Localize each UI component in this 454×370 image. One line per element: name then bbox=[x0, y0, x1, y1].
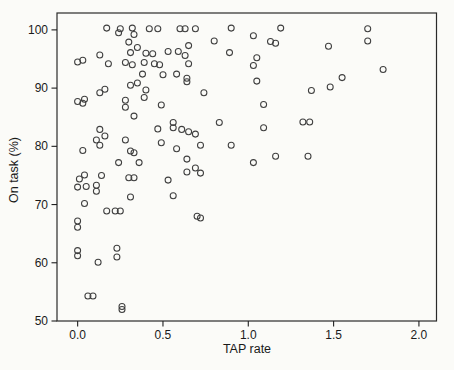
data-point bbox=[97, 52, 103, 58]
data-point bbox=[128, 194, 134, 200]
data-point bbox=[134, 44, 140, 50]
data-point bbox=[228, 25, 234, 31]
data-point bbox=[158, 102, 164, 108]
x-axis-title: TAP rate bbox=[223, 342, 271, 356]
data-point bbox=[75, 218, 81, 224]
data-point bbox=[308, 87, 314, 93]
data-point bbox=[273, 153, 279, 159]
data-point bbox=[182, 53, 188, 59]
data-point bbox=[80, 57, 86, 63]
y-axis-title: On task (%) bbox=[7, 137, 21, 203]
y-tick-label: 80 bbox=[35, 139, 49, 153]
data-point bbox=[300, 119, 306, 125]
data-point bbox=[326, 43, 332, 49]
data-point bbox=[155, 126, 161, 132]
plot-area-border bbox=[57, 13, 437, 321]
data-point bbox=[186, 43, 192, 49]
data-point bbox=[129, 25, 135, 31]
data-point bbox=[175, 48, 181, 54]
data-point bbox=[250, 160, 256, 166]
data-point bbox=[80, 147, 86, 153]
data-point bbox=[131, 32, 137, 38]
data-point bbox=[76, 176, 82, 182]
y-tick-label: 70 bbox=[35, 198, 49, 212]
data-point bbox=[216, 120, 222, 126]
data-point bbox=[250, 62, 256, 68]
data-point bbox=[165, 48, 171, 54]
data-point bbox=[99, 172, 105, 178]
data-point bbox=[82, 200, 88, 206]
data-point bbox=[114, 245, 120, 251]
data-point bbox=[102, 86, 108, 92]
data-point bbox=[114, 254, 120, 260]
data-point bbox=[128, 82, 134, 88]
data-point bbox=[165, 177, 171, 183]
data-point bbox=[104, 208, 110, 214]
data-point bbox=[184, 169, 190, 175]
data-point bbox=[174, 71, 180, 77]
data-point bbox=[365, 38, 371, 44]
data-points bbox=[75, 25, 387, 312]
data-point bbox=[122, 97, 128, 103]
data-point bbox=[122, 60, 128, 66]
data-point bbox=[365, 26, 371, 32]
data-point bbox=[254, 78, 260, 84]
data-point bbox=[143, 50, 149, 56]
y-tick-label: 60 bbox=[35, 256, 49, 270]
data-point bbox=[131, 113, 137, 119]
data-point bbox=[82, 172, 88, 178]
data-point bbox=[93, 182, 99, 188]
data-point bbox=[136, 160, 142, 166]
y-axis-ticks: 5060708090100 bbox=[28, 23, 57, 328]
scatter-plot-canvas: 5060708090100 0.00.51.01.52.0 TAP rate O… bbox=[0, 0, 454, 370]
data-point bbox=[254, 55, 260, 61]
data-point bbox=[186, 129, 192, 135]
data-point bbox=[158, 140, 164, 146]
scatter-plot-figure: 5060708090100 0.00.51.01.52.0 TAP rate O… bbox=[0, 0, 454, 370]
y-tick-label: 100 bbox=[28, 23, 48, 37]
data-point bbox=[134, 80, 140, 86]
data-point bbox=[93, 188, 99, 194]
data-point bbox=[201, 90, 207, 96]
data-point bbox=[126, 39, 132, 45]
x-tick-label: 1.0 bbox=[240, 328, 257, 342]
data-point bbox=[228, 142, 234, 148]
data-point bbox=[146, 26, 152, 32]
data-point bbox=[104, 25, 110, 31]
data-point bbox=[170, 193, 176, 199]
data-point bbox=[105, 61, 111, 67]
data-point bbox=[150, 51, 156, 57]
x-tick-label: 0.5 bbox=[155, 328, 172, 342]
x-tick-label: 2.0 bbox=[411, 328, 428, 342]
data-point bbox=[261, 125, 267, 131]
x-tick-label: 0.0 bbox=[69, 328, 86, 342]
x-axis-ticks: 0.00.51.01.52.0 bbox=[69, 321, 427, 342]
data-point bbox=[160, 72, 166, 78]
data-point bbox=[339, 75, 345, 81]
y-tick-label: 50 bbox=[35, 314, 49, 328]
data-point bbox=[141, 60, 147, 66]
data-point bbox=[211, 38, 217, 44]
data-point bbox=[250, 33, 256, 39]
data-point bbox=[278, 25, 284, 31]
data-point bbox=[192, 165, 198, 171]
data-point bbox=[97, 126, 103, 132]
data-point bbox=[95, 259, 101, 265]
data-point bbox=[192, 131, 198, 137]
data-point bbox=[184, 156, 190, 162]
data-point bbox=[75, 224, 81, 230]
data-point bbox=[97, 142, 103, 148]
data-point bbox=[116, 160, 122, 166]
data-point bbox=[186, 61, 192, 67]
data-point bbox=[83, 184, 89, 190]
data-point bbox=[75, 184, 81, 190]
data-point bbox=[305, 153, 311, 159]
data-point bbox=[129, 62, 135, 68]
data-point bbox=[198, 170, 204, 176]
data-point bbox=[174, 146, 180, 152]
data-point bbox=[102, 133, 108, 139]
data-point bbox=[227, 50, 233, 56]
data-point bbox=[198, 142, 204, 148]
y-tick-label: 90 bbox=[35, 81, 49, 95]
data-point bbox=[141, 94, 147, 100]
